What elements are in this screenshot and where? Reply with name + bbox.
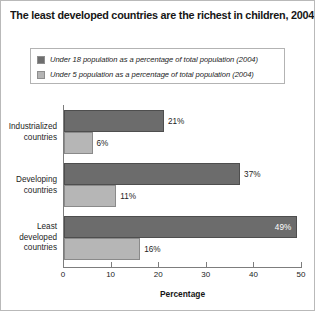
bar-value-label: 6% — [97, 139, 109, 148]
legend-item-under-5: Under 5 population as a percentage of to… — [37, 68, 279, 81]
category-label: Industrializedcountries — [9, 122, 57, 143]
x-axis-line — [63, 267, 302, 268]
bar-value-label: 16% — [144, 245, 160, 254]
legend-label-under-5: Under 5 population as a percentage of to… — [50, 70, 254, 79]
legend-item-under-18: Under 18 population as a percentage of t… — [37, 53, 279, 66]
x-tick-10 — [111, 262, 112, 267]
x-tick-40 — [253, 262, 254, 267]
bar-group: Developingcountries37%11% — [63, 163, 302, 207]
bar-value-label: 37% — [244, 170, 260, 179]
bar: 16% — [64, 238, 140, 260]
x-tick-label-40: 40 — [249, 270, 258, 279]
chart-legend: Under 18 population as a percentage of t… — [30, 48, 285, 84]
plot-area: 01020304050 Industrializedcountries21%6%… — [63, 105, 302, 267]
bar-value-label: 21% — [168, 117, 184, 126]
chart-title: The least developed countries are the ri… — [10, 8, 300, 22]
bar-group: Leastdevelopedcountries49%16% — [63, 216, 302, 260]
x-axis-title: Percentage — [63, 289, 302, 299]
x-tick-30 — [206, 262, 207, 267]
category-label: Leastdevelopedcountries — [19, 222, 57, 254]
x-tick-label-20: 20 — [154, 270, 163, 279]
bar: 11% — [64, 185, 116, 207]
bar: 49% — [64, 216, 297, 238]
bar-group: Industrializedcountries21%6% — [63, 110, 302, 154]
x-tick-label-10: 10 — [106, 270, 115, 279]
bar: 37% — [64, 163, 240, 185]
bar: 6% — [64, 132, 93, 154]
x-tick-20 — [158, 262, 159, 267]
x-tick-50 — [301, 262, 302, 267]
x-tick-label-50: 50 — [297, 270, 306, 279]
bar-value-label: 11% — [120, 192, 136, 201]
bar-value-label: 49% — [275, 223, 291, 232]
chart-figure: The least developed countries are the ri… — [0, 0, 315, 311]
category-label: Developingcountries — [16, 175, 57, 196]
legend-label-under-18: Under 18 population as a percentage of t… — [50, 55, 258, 64]
legend-swatch-icon-under-5 — [37, 71, 45, 79]
x-tick-0 — [63, 262, 64, 267]
x-tick-label-0: 0 — [61, 270, 65, 279]
x-tick-label-30: 30 — [201, 270, 210, 279]
bar: 21% — [64, 110, 164, 132]
legend-swatch-icon-under-18 — [37, 56, 45, 64]
